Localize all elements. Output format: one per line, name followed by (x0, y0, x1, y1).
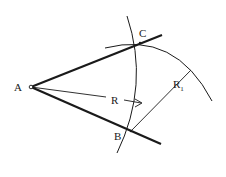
label-r1-subscript: 1 (180, 85, 184, 93)
point-a-marker (29, 85, 33, 89)
label-c: C (139, 27, 146, 39)
arc-r1 (105, 44, 212, 101)
geometric-construction-diagram: A C B R R1 (0, 0, 226, 177)
label-a: A (14, 81, 22, 93)
label-r1: R1 (173, 78, 184, 93)
label-b: B (114, 130, 121, 142)
point-c-marker (139, 42, 141, 44)
label-r: R (111, 94, 119, 106)
point-b-marker (130, 130, 132, 132)
radius-r1-line (131, 70, 191, 131)
ray-ac (31, 35, 162, 87)
radius-r-arrow-shaft (124, 100, 141, 103)
